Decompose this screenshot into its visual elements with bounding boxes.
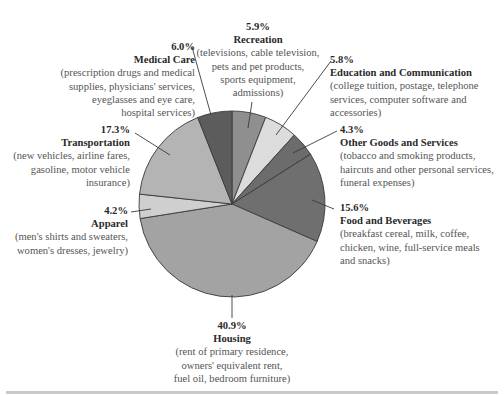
title-recreation: Recreation bbox=[188, 33, 328, 46]
label-food-beverages: 15.6% Food and Beverages (breakfast cere… bbox=[340, 201, 504, 267]
pct-apparel: 4.2% bbox=[0, 204, 128, 217]
title-medical: Medical Care bbox=[60, 53, 195, 66]
label-medical-care: 6.0% Medical Care (prescription drugs an… bbox=[60, 40, 195, 119]
label-transportation: 17.3% Transportation (new vehicles, airl… bbox=[0, 123, 130, 189]
label-recreation: 5.9% Recreation (televisions, cable tele… bbox=[188, 20, 328, 99]
title-apparel: Apparel bbox=[0, 217, 128, 230]
label-education-communication: 5.8% Education and Communication (colleg… bbox=[330, 53, 502, 119]
label-housing: 40.9% Housing (rent of primary residence… bbox=[162, 319, 302, 385]
pct-other: 4.3% bbox=[340, 123, 504, 136]
title-other: Other Goods and Services bbox=[340, 136, 504, 149]
pct-housing: 40.9% bbox=[162, 319, 302, 332]
bottom-divider bbox=[6, 391, 498, 394]
label-apparel: 4.2% Apparel (men's shirts and sweaters,… bbox=[0, 204, 128, 257]
pct-food: 15.6% bbox=[340, 201, 504, 214]
pct-transportation: 17.3% bbox=[0, 123, 130, 136]
pie-slices bbox=[139, 111, 325, 297]
label-other-goods-services: 4.3% Other Goods and Services (tobacco a… bbox=[340, 123, 504, 189]
pct-education: 5.8% bbox=[330, 53, 502, 66]
pct-medical: 6.0% bbox=[60, 40, 195, 53]
title-food: Food and Beverages bbox=[340, 214, 504, 227]
pct-recreation: 5.9% bbox=[188, 20, 328, 33]
title-housing: Housing bbox=[162, 332, 302, 345]
title-transportation: Transportation bbox=[0, 136, 130, 149]
title-education: Education and Communication bbox=[330, 66, 502, 79]
